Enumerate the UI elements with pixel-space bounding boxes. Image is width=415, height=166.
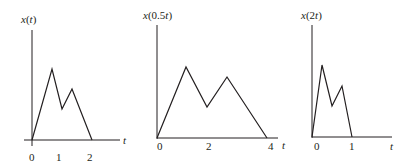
- tick-label-1: 1: [349, 140, 355, 152]
- tick-label-0: 0: [29, 151, 35, 163]
- x-axis-label: t: [282, 139, 286, 151]
- tick-label-1: 1: [56, 151, 62, 163]
- tick-label-0: 0: [314, 140, 320, 152]
- time-scaling-diagram: x(t) t 0 1 2 x(0.5t) t 0 2 4 x(2t) t 0 1: [0, 0, 415, 166]
- tick-label-0: 0: [157, 140, 163, 152]
- x-axis-label: t: [390, 140, 394, 152]
- panel-2-title: x(0.5t): [142, 9, 172, 22]
- x-axis-label: t: [123, 134, 127, 146]
- panel-x-2t: x(2t) t 0 1: [300, 9, 394, 152]
- signal-curve: [312, 65, 352, 137]
- signal-curve: [157, 67, 267, 138]
- panel-x-0.5t: x(0.5t) t 0 2 4: [142, 9, 286, 152]
- tick-label-2: 2: [206, 140, 212, 152]
- panel-1-title: x(t): [20, 13, 37, 26]
- tick-label-2: 2: [87, 151, 93, 163]
- signal-curve: [32, 69, 92, 140]
- tick-label-4: 4: [268, 140, 274, 152]
- panel-3-title: x(2t): [300, 9, 322, 22]
- panel-x-t: x(t) t 0 1 2: [20, 13, 127, 163]
